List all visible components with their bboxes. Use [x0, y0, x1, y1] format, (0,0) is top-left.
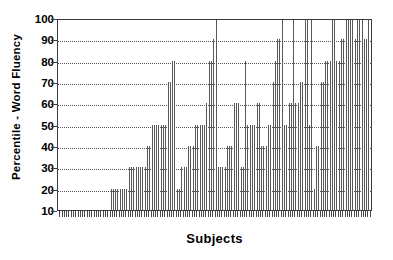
x-tick-mark — [153, 211, 154, 217]
data-spike — [273, 82, 274, 210]
data-spike — [142, 167, 143, 210]
x-tick-mark — [313, 211, 314, 217]
x-tick-mark — [119, 211, 120, 217]
data-spike — [222, 167, 223, 210]
x-tick-mark — [94, 211, 95, 217]
x-tick-mark — [320, 211, 321, 217]
data-spike — [298, 103, 299, 210]
data-spike — [200, 125, 201, 210]
data-spike — [247, 125, 248, 210]
x-tick-mark — [183, 211, 184, 217]
data-spike — [371, 19, 372, 210]
x-tick-mark — [66, 211, 67, 217]
data-spike — [325, 61, 326, 210]
data-spike — [147, 146, 148, 210]
data-spike — [332, 19, 333, 210]
x-tick-mark — [370, 211, 371, 217]
x-tick-mark — [297, 211, 298, 217]
chart-figure: Percentile - Word Fluency 10203040506070… — [0, 0, 393, 260]
data-spike — [355, 39, 356, 210]
data-spike — [161, 125, 162, 210]
data-spike — [163, 125, 164, 210]
data-spike — [156, 125, 157, 210]
x-tick-mark — [201, 211, 202, 217]
x-tick-mark — [215, 211, 216, 217]
data-spike — [268, 125, 269, 210]
x-tick-mark — [139, 211, 140, 217]
x-tick-mark — [278, 211, 279, 217]
x-tick-mark — [354, 211, 355, 217]
x-tick-mark — [146, 211, 147, 217]
x-tick-mark — [125, 211, 126, 217]
data-spike — [227, 146, 228, 210]
y-tick-label: 40 — [22, 142, 54, 152]
x-tick-mark — [258, 211, 259, 217]
data-spike — [190, 146, 191, 210]
x-tick-mark — [80, 211, 81, 217]
x-tick-mark — [340, 211, 341, 217]
x-tick-mark — [196, 211, 197, 217]
data-spike — [218, 167, 219, 210]
data-spike — [158, 125, 159, 210]
data-spike — [149, 146, 150, 210]
x-tick-mark — [219, 211, 220, 217]
x-tick-mark — [349, 211, 350, 217]
x-tick-mark — [262, 211, 263, 217]
y-tick-mark — [51, 190, 57, 191]
x-tick-mark — [178, 211, 179, 217]
x-tick-mark — [169, 211, 170, 217]
x-tick-mark — [167, 211, 168, 217]
data-spike — [220, 167, 221, 210]
x-tick-mark — [82, 211, 83, 217]
x-axis-tick-marks — [57, 211, 372, 218]
data-spike — [229, 146, 230, 210]
x-tick-mark — [98, 211, 99, 217]
data-spike — [129, 167, 130, 210]
x-tick-mark — [294, 211, 295, 217]
x-tick-mark — [205, 211, 206, 217]
data-spike — [168, 82, 169, 210]
x-tick-mark — [335, 211, 336, 217]
data-spike — [170, 82, 171, 210]
x-tick-mark — [260, 211, 261, 217]
x-tick-mark — [251, 211, 252, 217]
data-spike — [364, 39, 365, 210]
gridline — [58, 41, 371, 42]
x-tick-mark — [132, 211, 133, 217]
data-spike — [307, 19, 308, 210]
x-tick-mark — [194, 211, 195, 217]
data-spike — [136, 167, 137, 210]
x-tick-mark — [351, 211, 352, 217]
x-tick-mark — [75, 211, 76, 217]
x-tick-mark — [356, 211, 357, 217]
data-spike — [254, 125, 255, 210]
data-spike — [193, 146, 194, 210]
gridline — [58, 127, 371, 128]
x-tick-mark — [212, 211, 213, 217]
x-tick-mark — [173, 211, 174, 217]
data-spike — [309, 125, 310, 210]
data-spike — [124, 189, 125, 210]
y-tick-label: 20 — [22, 185, 54, 195]
x-tick-mark — [59, 211, 60, 217]
x-tick-mark — [185, 211, 186, 217]
x-tick-mark — [160, 211, 161, 217]
x-tick-mark — [64, 211, 65, 217]
y-tick-mark — [51, 126, 57, 127]
x-tick-mark — [256, 211, 257, 217]
data-spike — [321, 82, 322, 210]
data-spike — [263, 146, 264, 210]
data-spike — [277, 39, 278, 210]
data-spike — [238, 103, 239, 210]
x-tick-mark — [246, 211, 247, 217]
x-tick-mark — [73, 211, 74, 217]
data-spike — [339, 61, 340, 210]
y-tick-label: 30 — [22, 163, 54, 173]
x-tick-mark — [347, 211, 348, 217]
data-spike — [346, 19, 347, 210]
data-spike — [184, 167, 185, 210]
x-tick-mark — [103, 211, 104, 217]
data-spike — [115, 189, 116, 210]
x-tick-mark — [114, 211, 115, 217]
x-tick-mark — [233, 211, 234, 217]
